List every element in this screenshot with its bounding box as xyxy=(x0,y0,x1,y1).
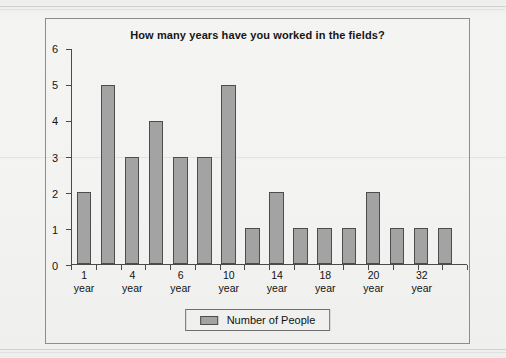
bar[interactable] xyxy=(414,228,428,264)
bar[interactable] xyxy=(197,157,211,265)
bar-slot xyxy=(120,49,144,264)
x-axis-tick-label: 10year xyxy=(217,269,241,295)
bar[interactable] xyxy=(269,192,283,264)
bar[interactable] xyxy=(390,228,404,264)
legend-color-swatch xyxy=(200,316,218,325)
bar-slot xyxy=(192,49,216,264)
bar-slot xyxy=(385,49,409,264)
x-axis-tick-label: 32year xyxy=(410,269,434,295)
y-axis-tick: 1 xyxy=(66,229,71,230)
chart-title: How many years have you worked in the fi… xyxy=(46,29,469,41)
x-axis-tick-label xyxy=(144,269,168,295)
legend-label: Number of People xyxy=(227,314,316,326)
x-axis-line xyxy=(71,264,467,265)
bar-slot xyxy=(240,49,264,264)
bar[interactable] xyxy=(366,192,380,264)
x-axis-tick-labels: 1year4year6year10year14year18year20year3… xyxy=(72,269,458,295)
bar-slot xyxy=(72,49,96,264)
bar[interactable] xyxy=(245,228,259,264)
x-axis-tick-label xyxy=(386,269,410,295)
scan-artifact-line xyxy=(0,9,506,10)
bar[interactable] xyxy=(438,228,452,264)
bar[interactable] xyxy=(77,192,91,264)
bar-slot xyxy=(337,49,361,264)
y-axis-tick: 4 xyxy=(66,121,71,122)
bar-slot xyxy=(433,49,457,264)
x-axis-tick-label xyxy=(96,269,120,295)
bar-slot xyxy=(96,49,120,264)
bar[interactable] xyxy=(101,85,115,264)
scan-artifact-line xyxy=(0,6,506,7)
x-axis-tick-label xyxy=(337,269,361,295)
x-axis-tick-label xyxy=(193,269,217,295)
x-axis-tick-label: 14year xyxy=(265,269,289,295)
x-axis-tick-label: 6year xyxy=(169,269,193,295)
x-axis-tick-label: 20year xyxy=(362,269,386,295)
bar-slot xyxy=(265,49,289,264)
bar[interactable] xyxy=(293,228,307,264)
plot-area: 0123456 xyxy=(71,49,457,265)
y-axis-tick: 6 xyxy=(66,49,71,50)
bar[interactable] xyxy=(173,157,187,265)
x-axis-tick xyxy=(467,265,468,270)
y-axis-tick-label: 2 xyxy=(52,188,58,200)
bar-slot xyxy=(168,49,192,264)
y-axis-tick-label: 5 xyxy=(52,79,58,91)
bar[interactable] xyxy=(317,228,331,264)
bar[interactable] xyxy=(125,157,139,265)
bar-series xyxy=(72,49,457,264)
bar-slot xyxy=(409,49,433,264)
y-axis-tick: 5 xyxy=(66,85,71,86)
y-axis-tick-label: 3 xyxy=(52,152,58,164)
x-axis-tick-label xyxy=(241,269,265,295)
scan-artifact-line xyxy=(0,349,506,350)
bar-slot xyxy=(313,49,337,264)
x-axis-tick-label: 1year xyxy=(72,269,96,295)
chart-legend: Number of People xyxy=(185,309,331,331)
bar[interactable] xyxy=(149,121,163,264)
bar-slot xyxy=(144,49,168,264)
bar[interactable] xyxy=(342,228,356,264)
y-axis-tick: 2 xyxy=(66,193,71,194)
y-axis-tick-label: 4 xyxy=(52,115,58,127)
bar-slot xyxy=(361,49,385,264)
bar[interactable] xyxy=(221,85,235,264)
y-axis-tick-label: 1 xyxy=(52,224,58,236)
x-axis-tick-label xyxy=(289,269,313,295)
x-axis-tick-label: 18year xyxy=(313,269,337,295)
y-axis-tick-label: 6 xyxy=(52,43,58,55)
scan-artifact-line xyxy=(0,352,506,353)
x-axis-tick-label xyxy=(434,269,458,295)
bar-slot xyxy=(289,49,313,264)
bar-slot xyxy=(216,49,240,264)
chart-container: How many years have you worked in the fi… xyxy=(45,18,470,344)
y-axis-tick-label: 0 xyxy=(52,260,58,272)
y-axis-tick: 3 xyxy=(66,157,71,158)
x-axis-tick-label: 4year xyxy=(120,269,144,295)
